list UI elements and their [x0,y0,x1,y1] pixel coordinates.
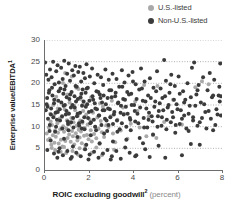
legend-label-us-listed: U.S.-listed [158,3,192,12]
series-non-us-listed [44,58,222,162]
plot-area [44,40,222,170]
x-axis-tick-labels: 02468 [0,174,233,186]
chart-legend: U.S.-listed Non-U.S.-listed [148,2,233,28]
x-tick-mark [89,170,90,173]
x-tick-label: 2 [79,174,99,182]
x-axis-title: ROIC excluding goodwill2 (percent) [0,188,233,199]
y-axis-line [44,40,45,170]
x-tick-label: 6 [168,174,188,182]
x-tick-label: 8 [212,174,232,182]
legend-item-us-listed: U.S.-listed [148,2,233,13]
scatter-chart-figure: U.S.-listed Non-U.S.-listed 051015202530… [0,0,233,211]
x-axis-title-unit: (percent) [149,190,180,199]
x-axis-title-footnote: 2 [144,188,147,194]
y-axis-title: Enterprise value/EBITDA1 [7,40,18,170]
scatter-points [44,40,222,170]
legend-marker-non-us-listed [148,18,154,24]
legend-label-non-us-listed: Non-U.S.-listed [158,16,207,25]
x-tick-mark [44,170,45,173]
legend-marker-us-listed [148,5,154,11]
x-tick-label: 0 [34,174,54,182]
x-tick-mark [222,170,223,173]
y-axis-title-text: Enterprise value/EBITDA [8,63,17,150]
x-tick-mark [178,170,179,173]
x-axis-title-text: ROIC excluding goodwill [52,190,144,199]
y-axis-title-footnote: 1 [7,60,13,63]
legend-item-non-us-listed: Non-U.S.-listed [148,15,233,26]
x-tick-label: 4 [123,174,143,182]
x-tick-mark [133,170,134,173]
